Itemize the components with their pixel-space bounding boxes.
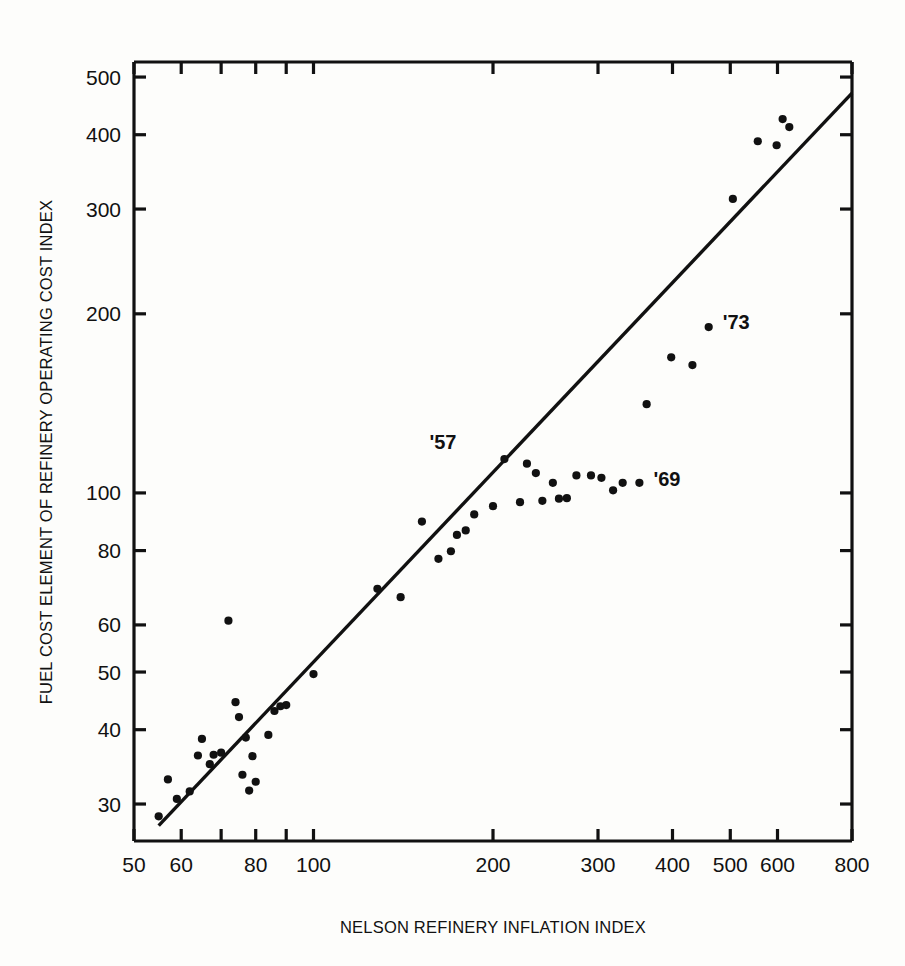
data-point [245,786,253,794]
data-point [264,731,272,739]
data-point [252,778,260,786]
data-point [238,771,246,779]
y-tick-label: 200 [86,302,121,325]
data-point [500,455,508,463]
data-point [523,460,531,468]
data-point [549,479,557,487]
y-tick-label: 80 [98,539,121,562]
x-tick-label: 50 [122,853,145,876]
data-point [773,141,781,149]
data-point [224,617,232,625]
data-point [453,531,461,539]
data-point [206,760,214,768]
data-point [667,353,675,361]
y-tick-label: 50 [98,661,121,684]
data-point [194,751,202,759]
data-point [688,361,696,369]
data-point [555,495,563,503]
data-point [309,670,317,678]
y-tick-label: 400 [86,123,121,146]
data-point [643,400,651,408]
data-point [242,733,250,741]
annotation-label: '73 [723,311,750,333]
data-point [754,137,762,145]
data-point [563,494,571,502]
data-point [198,735,206,743]
y-tick-label: 30 [98,793,121,816]
x-tick-label: 500 [713,853,748,876]
data-point [155,812,163,820]
x-tick-label: 600 [760,853,795,876]
figure-container: 5060801002003004005006008003040506080100… [0,0,905,966]
data-point [434,555,442,563]
data-point [248,752,256,760]
data-point [217,749,225,757]
x-axis-title: NELSON REFINERY INFLATION INDEX [340,918,646,936]
data-point [173,795,181,803]
data-point [397,593,405,601]
data-point [282,701,290,709]
data-point [447,547,455,555]
data-point [587,471,595,479]
y-axis-title: FUEL COST ELEMENT OF REFINERY OPERATING … [37,200,55,704]
data-point [779,115,787,123]
annotation-label: '57 [429,431,456,453]
data-point [532,469,540,477]
annotation-label: '69 [653,468,680,490]
data-point [418,517,426,525]
data-point [210,751,218,759]
x-tick-label: 100 [296,853,331,876]
data-point [597,474,605,482]
data-point [572,471,580,479]
y-tick-label: 60 [98,613,121,636]
data-point [619,479,627,487]
data-point [489,502,497,510]
data-point [231,698,239,706]
x-tick-label: 200 [475,853,510,876]
y-tick-label: 300 [86,198,121,221]
data-point [516,498,524,506]
y-tick-label: 500 [86,66,121,89]
y-tick-label: 100 [86,481,121,504]
data-point [470,510,478,518]
y-tick-label: 40 [98,718,121,741]
x-tick-label: 300 [580,853,615,876]
x-tick-label: 800 [834,853,869,876]
data-point [538,497,546,505]
data-point [609,486,617,494]
chart-background [0,0,905,966]
data-point [785,123,793,131]
data-point [729,195,737,203]
x-tick-label: 80 [244,853,267,876]
scatter-chart: 5060801002003004005006008003040506080100… [0,0,905,966]
data-point [373,585,381,593]
x-tick-label: 60 [170,853,193,876]
data-point [635,479,643,487]
x-tick-label: 400 [655,853,690,876]
data-point [462,526,470,534]
data-point [164,775,172,783]
data-point [705,323,713,331]
data-point [186,787,194,795]
data-point [235,713,243,721]
